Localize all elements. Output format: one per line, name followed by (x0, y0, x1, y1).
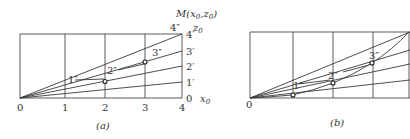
panel-a-leader-1 (75, 79, 104, 80)
panel-a-xtick-1: 1 (62, 102, 68, 113)
panel-b: 1″ 2″ 3″ 0 (b) (246, 32, 410, 128)
panel-a-rtick-2: 2′ (186, 61, 195, 72)
panel-a-ray-2 (20, 66, 182, 98)
panel-a-label-3pp: 3″ (152, 47, 162, 58)
panel-b-ray-4 (250, 32, 410, 98)
panel-b-point-1 (291, 93, 295, 97)
panel-a: 1″ 2″ 3″ 0 1 2 3 4 0 1′ 2′ 3′ 4′ 4″ z0 M… (17, 8, 217, 131)
panel-a-ray-4 (20, 34, 182, 98)
panel-b-point-2 (331, 81, 335, 85)
panel-a-ray-1 (20, 82, 182, 98)
panel-b-origin-label: 0 (246, 99, 252, 110)
panel-a-rtick-1: 1′ (186, 77, 195, 88)
panel-a-label-1pp: 1″ (68, 74, 78, 85)
panel-a-rtick-0: 0 (186, 93, 192, 104)
panel-b-label-1pp: 1″ (293, 80, 303, 91)
panel-a-point-3 (143, 60, 147, 64)
panel-b-ray-1 (250, 80, 410, 98)
panel-a-caption: (a) (96, 120, 110, 131)
panel-a-xtick-2: 2 (102, 102, 108, 113)
panel-a-leader-2 (118, 64, 144, 70)
panel-a-ray-3 (20, 51, 182, 98)
panel-b-point-3 (370, 61, 374, 65)
panel-a-point-2 (103, 80, 107, 84)
panel-a-corner-label: 4″ (170, 22, 180, 33)
panel-a-xtick-4: 4 (179, 102, 185, 113)
panel-a-point-title: M(x0,z0) (175, 8, 217, 21)
panel-a-x-axis-label: x0 (200, 93, 211, 106)
panel-a-rtick-3: 3′ (186, 46, 195, 57)
panel-a-xtick-3: 3 (142, 102, 148, 113)
panel-a-xtick-0: 0 (17, 102, 23, 113)
panel-b-label-3pp: 3″ (369, 50, 379, 61)
panel-a-label-2pp: 2″ (107, 65, 117, 76)
panel-b-caption: (b) (330, 117, 344, 128)
panel-b-label-2pp: 2″ (328, 70, 338, 81)
figure-canvas: 1″ 2″ 3″ 0 1 2 3 4 0 1′ 2′ 3′ 4′ 4″ z0 M… (0, 0, 410, 139)
